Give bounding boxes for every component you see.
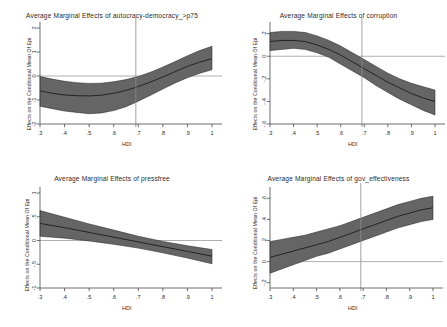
- x-axis-tick-label: .8: [384, 294, 389, 300]
- x-axis-tick-label: .9: [407, 294, 412, 300]
- confidence-interval-band: [40, 211, 212, 264]
- y-axis-tick-label: 0: [261, 55, 267, 58]
- x-axis-label: HDI: [348, 305, 358, 311]
- y-axis-tick-label: .6: [261, 196, 267, 201]
- y-axis-tick-label: -.2: [261, 76, 267, 83]
- x-axis-tick-label: .9: [185, 130, 190, 136]
- x-axis-tick-label: 1: [210, 130, 213, 136]
- x-axis-tick-label: .9: [185, 294, 190, 300]
- x-axis-tick-label: .7: [361, 294, 366, 300]
- x-axis-tick-label: .6: [338, 130, 343, 136]
- x-axis-tick-label: .4: [62, 130, 67, 136]
- x-axis-tick-label: .3: [268, 294, 273, 300]
- panel-pressfree: Average Marginal Effects of pressfree Ef…: [0, 163, 224, 327]
- x-axis-tick-label: .6: [111, 294, 116, 300]
- plot-area: .3.4.5.6.7.8.91-1-.50.51: [0, 163, 224, 327]
- plot-area: .3.4.5.6.7.8.91-2-1012: [0, 0, 224, 163]
- y-axis-tick-label: .5: [31, 214, 37, 219]
- y-axis-tick-label: -1: [31, 98, 37, 103]
- estimate-line: [40, 223, 212, 256]
- y-axis-tick-label: -.2: [261, 279, 267, 286]
- x-axis-label: HDI: [122, 141, 132, 147]
- y-axis-tick-label: 0: [31, 74, 37, 77]
- confidence-interval-band: [270, 31, 435, 115]
- x-axis-tick-label: 1: [431, 294, 434, 300]
- x-axis-tick-label: 1: [210, 294, 213, 300]
- y-axis-tick-label: -.4: [261, 98, 267, 105]
- x-axis-tick-label: .7: [362, 130, 367, 136]
- x-axis-tick-label: .3: [38, 294, 43, 300]
- x-axis-tick-label: .4: [291, 294, 296, 300]
- y-axis-tick-label: 1: [31, 191, 37, 194]
- x-axis-tick-label: .6: [111, 130, 116, 136]
- y-axis-tick-label: 0: [31, 239, 37, 242]
- x-axis-tick-label: .8: [161, 130, 166, 136]
- x-axis-tick-label: .4: [62, 294, 67, 300]
- x-axis-tick-label: .3: [38, 130, 43, 136]
- y-axis-tick-label: -2: [31, 122, 37, 127]
- plot-area: .3.4.5.6.7.8.91-.6-.4-.20.2: [224, 0, 447, 163]
- x-axis-tick-label: .3: [268, 130, 273, 136]
- y-axis-tick-label: .2: [261, 238, 267, 243]
- y-axis-tick-label: -1: [31, 286, 37, 291]
- y-axis-tick-label: -.5: [31, 261, 37, 268]
- marginal-effects-figure: Average Marginal Effects of autocracy-de…: [0, 0, 447, 327]
- y-axis-tick-label: -.6: [261, 121, 267, 128]
- x-axis-tick-label: .8: [161, 294, 166, 300]
- x-axis-label: HDI: [348, 141, 358, 147]
- y-axis-tick-label: 0: [261, 260, 267, 263]
- plot-area: .3.4.5.6.7.8.91-.20.2.4.6: [224, 163, 447, 327]
- y-axis-tick-label: .2: [261, 31, 267, 36]
- x-axis-tick-label: .8: [386, 130, 391, 136]
- panel-autocracy-democracy: Average Marginal Effects of autocracy-de…: [0, 0, 224, 163]
- x-axis-tick-label: .6: [338, 294, 343, 300]
- x-axis-tick-label: .9: [409, 130, 414, 136]
- x-axis-tick-label: .5: [87, 130, 92, 136]
- y-axis-tick-label: 2: [31, 26, 37, 29]
- x-axis-tick-label: 1: [433, 130, 436, 136]
- x-axis-tick-label: .5: [315, 130, 320, 136]
- x-axis-tick-label: .7: [136, 294, 141, 300]
- y-axis-tick-label: 1: [31, 50, 37, 53]
- panel-corruption: Average Marginal Effects of corruption E…: [224, 0, 447, 163]
- y-axis-tick-label: .4: [261, 217, 267, 222]
- x-axis-tick-label: .5: [87, 294, 92, 300]
- x-axis-tick-label: .4: [291, 130, 296, 136]
- x-axis-tick-label: .5: [314, 294, 319, 300]
- confidence-interval-band: [40, 46, 212, 113]
- x-axis-tick-label: .7: [136, 130, 141, 136]
- panel-gov-effectiveness: Average Marginal Effects of gov_effectiv…: [224, 163, 447, 327]
- x-axis-label: HDI: [122, 305, 132, 311]
